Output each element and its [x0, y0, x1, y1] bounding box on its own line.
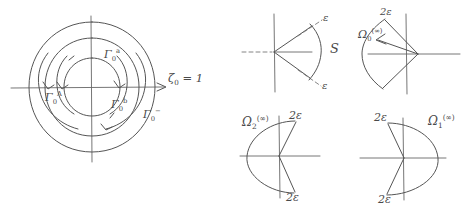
upper-sector-ray [274, 26, 312, 52]
omega-1-infinity-diagram: 2ε 2ε Ω1(∞) [352, 104, 470, 209]
inner-tick-lower [69, 56, 74, 60]
upper-boundary-ray-o2 [279, 122, 296, 156]
omega-2-arc [247, 121, 295, 193]
label-epsilon-lower: ε [322, 81, 327, 91]
label-epsilon-upper: ε [323, 13, 328, 23]
omega-0-drawing [358, 4, 470, 102]
label-gamma-0-A: Γ0A [45, 91, 62, 106]
label-2-epsilon-o0: 2ε [380, 7, 392, 17]
label-gamma-0-a: Γ0a [104, 48, 120, 63]
upper-boundary-ray-o0 [385, 20, 418, 54]
label-gamma-0-minus: Γ0− [143, 108, 161, 123]
label-omega-1-infinity: Ω1(∞) [428, 114, 455, 130]
omega-0-pointer-line [378, 40, 418, 54]
omega-0-infinity-diagram: 2ε Ω0(∞) [358, 4, 470, 102]
label-omega-2-infinity: Ω2(∞) [242, 115, 269, 131]
label-sector-S: S [330, 42, 339, 55]
upper-boundary-ray-o1 [388, 124, 404, 158]
omega-2-infinity-diagram: 2ε 2ε Ω2(∞) [232, 104, 350, 209]
horizontal-axis [11, 87, 164, 88]
sector-S-diagram: ε ε S [240, 4, 350, 102]
label-2-epsilon-o2-bottom: 2ε [286, 192, 299, 203]
omega-1-arc [387, 123, 438, 195]
label-2-epsilon-o1-bottom: 2ε [378, 194, 391, 205]
concentric-contour-diagram: Γ0a Γ0A Γ0b Γ0− ζ0 = 1 [0, 0, 235, 209]
upper-sector-ray-dashed [298, 20, 322, 36]
lower-boundary-ray-o1 [387, 158, 404, 194]
label-2-epsilon-o1-top: 2ε [374, 112, 387, 123]
label-2-epsilon-o2-top: 2ε [289, 110, 302, 121]
figure-canvas: Γ0a Γ0A Γ0b Γ0− ζ0 = 1 [0, 0, 470, 209]
label-omega-0-infinity: Ω0(∞) [358, 28, 382, 43]
lower-boundary-ray-o0 [383, 54, 418, 88]
lower-boundary-ray-o2 [279, 156, 295, 192]
lower-sector-ray-dashed [298, 70, 321, 86]
label-gamma-0-b: Γ0b [111, 98, 127, 113]
label-axis-zeta: ζ0 = 1 [168, 73, 203, 86]
